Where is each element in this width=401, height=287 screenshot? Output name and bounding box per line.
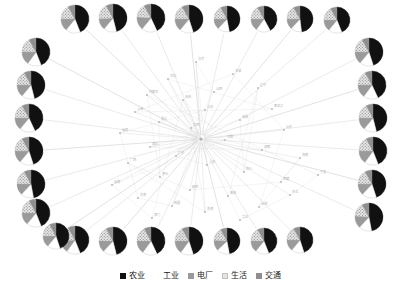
pie-pie-bottom-6 [251, 228, 277, 254]
pie-pie-left-7 [43, 223, 69, 249]
legend-swatch-transport [256, 273, 262, 279]
legend-label-industry: 工业 [163, 271, 179, 280]
pie-pie-top-4 [175, 5, 203, 33]
svg-text:东北: 东北 [292, 189, 299, 194]
svg-text:青海: 青海 [230, 190, 237, 195]
pie-pie-top-2 [99, 4, 127, 32]
pie-pie-left-5 [17, 170, 45, 198]
svg-text:北京: 北京 [198, 56, 204, 61]
svg-text:福建: 福建 [122, 127, 129, 132]
svg-text:澳门: 澳门 [154, 212, 160, 217]
pie-pie-bottom-4 [175, 227, 203, 255]
svg-text:黑龙江: 黑龙江 [274, 103, 284, 108]
svg-text:江西: 江西 [193, 122, 199, 127]
chart-legend: 农业 工业 电厂 生活 交通 [0, 271, 401, 280]
legend-label-transport: 交通 [265, 271, 281, 280]
legend-item-industry[interactable]: 工业 [154, 271, 179, 280]
legend-item-agriculture[interactable]: 农业 [120, 271, 145, 280]
svg-text:贵州: 贵州 [162, 171, 168, 176]
legend-swatch-agriculture [120, 273, 126, 279]
pie-pie-right-3 [359, 104, 387, 132]
legend-label-agriculture: 农业 [129, 271, 145, 280]
svg-text:河南: 河南 [227, 134, 233, 139]
svg-text:吉林: 吉林 [185, 94, 192, 99]
svg-text:安徽: 安徽 [242, 114, 249, 119]
pie-pie-right-6 [355, 203, 383, 231]
svg-text:山东: 山东 [286, 124, 292, 129]
legend-label-powerplant: 电厂 [197, 271, 213, 280]
svg-text:浙江: 浙江 [161, 116, 168, 121]
legend-swatch-powerplant [188, 273, 194, 279]
pie-pie-left-1 [22, 38, 50, 66]
legend-item-powerplant[interactable]: 电厂 [188, 271, 213, 280]
svg-text:广西: 广西 [130, 157, 136, 162]
pie-pie-left-6 [22, 199, 50, 227]
svg-text:甘肃: 甘肃 [140, 192, 147, 197]
pie-pie-left-3 [15, 104, 43, 132]
svg-text:华北: 华北 [242, 214, 249, 219]
svg-text:山西: 山西 [216, 86, 222, 91]
svg-text:河北: 河北 [170, 73, 177, 78]
pie-pie-top-3 [137, 4, 165, 32]
pie-pie-bottom-2 [99, 227, 127, 255]
pie-pie-top-8 [324, 7, 350, 33]
pie-pie-bottom-5 [214, 228, 240, 254]
pie-pie-top-7 [287, 6, 313, 32]
legend-swatch-industry [154, 273, 160, 279]
pie-pie-left-2 [17, 71, 45, 99]
svg-text:辽宁: 辽宁 [260, 82, 266, 87]
svg-text:新疆: 新疆 [174, 200, 181, 205]
legend-swatch-domestic [222, 273, 228, 279]
svg-text:云南: 云南 [114, 179, 120, 184]
svg-text:宁夏: 宁夏 [320, 169, 327, 174]
network-node-labels: 北京天津河北山西内蒙古辽宁吉林黑龙江上海江苏浙江安徽福建江西山东河南湖北湖南广东… [114, 56, 327, 219]
legend-item-domestic[interactable]: 生活 [222, 271, 247, 280]
svg-text:陕西: 陕西 [192, 184, 198, 189]
radial-network-pie-chart: 北京天津河北山西内蒙古辽宁吉林黑龙江上海江苏浙江安徽福建江西山东河南湖北湖南广东… [0, 0, 401, 287]
pie-pie-right-5 [358, 170, 386, 198]
svg-text:上海: 上海 [137, 106, 144, 111]
svg-text:内蒙古: 内蒙古 [149, 89, 159, 94]
pie-pie-left-4 [15, 137, 43, 165]
svg-text:香港: 香港 [207, 206, 214, 211]
svg-text:湖南: 湖南 [264, 144, 270, 149]
pie-pie-top-5 [214, 6, 240, 32]
legend-label-domestic: 生活 [231, 271, 247, 280]
pie-pie-bottom-3 [137, 227, 165, 255]
svg-text:天津: 天津 [235, 68, 242, 73]
pie-pie-right-1 [355, 38, 383, 66]
svg-text:台湾: 台湾 [261, 201, 268, 206]
svg-text:西藏: 西藏 [283, 176, 290, 181]
pie-pie-bottom-7 [287, 227, 313, 253]
svg-text:广东: 广东 [178, 150, 184, 155]
svg-text:江苏: 江苏 [207, 104, 214, 109]
pie-pie-right-2 [358, 71, 386, 99]
svg-text:湖北: 湖北 [152, 141, 159, 146]
perimeter-pie-group [15, 4, 387, 255]
pie-pie-top-6 [251, 6, 277, 32]
svg-text:重庆: 重庆 [209, 159, 216, 164]
pie-pie-top-1 [61, 5, 89, 33]
svg-text:海南: 海南 [302, 152, 308, 157]
chart-canvas: 北京天津河北山西内蒙古辽宁吉林黑龙江上海江苏浙江安徽福建江西山东河南湖北湖南广东… [0, 0, 401, 287]
legend-item-transport[interactable]: 交通 [256, 271, 281, 280]
pie-pie-right-4 [359, 137, 387, 165]
svg-text:四川: 四川 [246, 167, 252, 171]
